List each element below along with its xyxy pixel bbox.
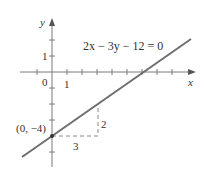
- run-label: 3: [73, 140, 79, 152]
- equation-label: 2x − 3y − 12 = 0: [83, 39, 163, 53]
- x-axis-arrow-icon: [188, 69, 196, 75]
- coordinate-plane: y x 0 1 1 2x − 3y − 12 = 0 (0, −4) 3 2: [0, 0, 205, 176]
- origin-label: 0: [42, 76, 48, 88]
- x-tick-label-1: 1: [64, 78, 70, 90]
- y-axis-arrow-icon: [49, 18, 55, 26]
- rise-label: 2: [101, 118, 107, 130]
- y-tick-label-1: 1: [42, 50, 48, 62]
- y-axis-label: y: [39, 16, 45, 28]
- x-axis-label: x: [187, 76, 193, 88]
- point-marker: [50, 134, 54, 138]
- point-label: (0, −4): [16, 122, 46, 135]
